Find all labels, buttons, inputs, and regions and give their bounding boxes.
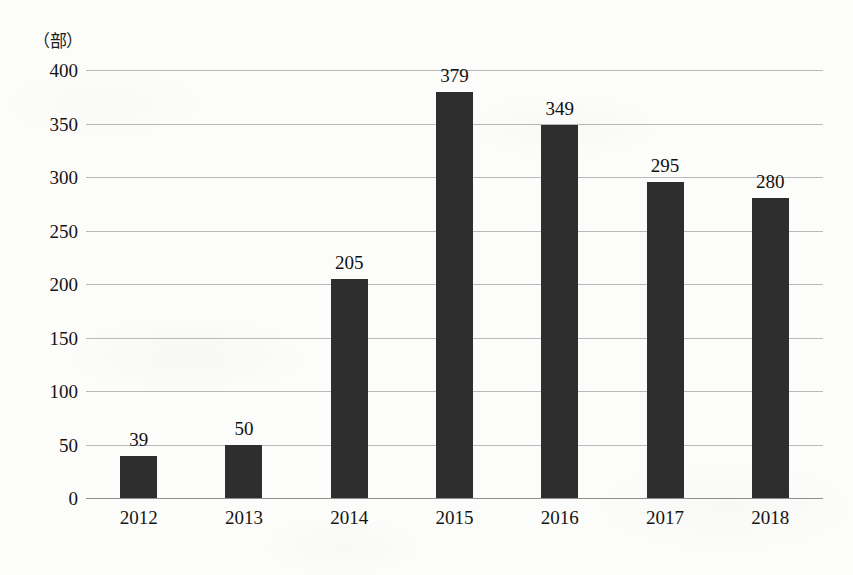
bar-value-label: 280 [725, 172, 815, 191]
bar[interactable] [647, 182, 684, 498]
y-axis-tick-label: 0 [18, 489, 78, 508]
y-axis-tick-label: 150 [18, 328, 78, 347]
bar-value-label: 295 [620, 156, 710, 175]
bar-value-label: 205 [304, 253, 394, 272]
y-axis-tick-label: 350 [18, 114, 78, 133]
bar-value-label: 50 [199, 419, 289, 438]
x-axis-tick-label: 2012 [94, 508, 184, 527]
chart-page: （部） 050100150200250300350400 39502053793… [0, 0, 853, 575]
x-axis-tick-label: 2013 [199, 508, 289, 527]
y-axis-unit-label: （部） [33, 27, 83, 52]
bar-value-label: 349 [515, 99, 605, 118]
plot-area: 3950205379349295280 [86, 70, 823, 498]
y-axis-tick-label: 400 [18, 61, 78, 80]
y-axis-tick-label: 50 [18, 435, 78, 454]
bar[interactable] [331, 279, 368, 498]
x-axis-tick-label: 2017 [620, 508, 710, 527]
bar[interactable] [225, 445, 262, 499]
y-axis-tick-label: 300 [18, 168, 78, 187]
x-axis: 2012201320142015201620172018 [86, 508, 823, 542]
bar-value-label: 39 [94, 430, 184, 449]
bar[interactable] [120, 456, 157, 498]
x-axis-tick-label: 2016 [515, 508, 605, 527]
y-axis: 050100150200250300350400 [16, 70, 78, 498]
axis-baseline [86, 498, 823, 499]
y-axis-tick-label: 100 [18, 382, 78, 401]
x-axis-tick-label: 2014 [304, 508, 394, 527]
y-axis-tick-label: 250 [18, 221, 78, 240]
bar[interactable] [436, 92, 473, 498]
bar-value-label: 379 [410, 66, 500, 85]
x-axis-tick-label: 2018 [725, 508, 815, 527]
y-axis-tick-label: 200 [18, 275, 78, 294]
bar[interactable] [752, 198, 789, 498]
bar[interactable] [541, 125, 578, 498]
x-axis-tick-label: 2015 [410, 508, 500, 527]
